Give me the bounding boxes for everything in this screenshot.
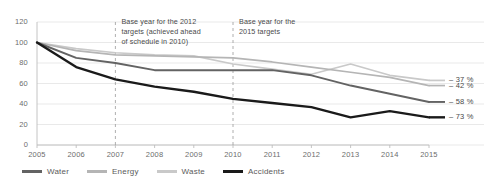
y-tick-label: 60 xyxy=(6,79,28,88)
legend-swatch-icon xyxy=(22,170,42,173)
annotation-base-year-2015: Base year for the 2015 targets xyxy=(239,17,295,37)
x-tick-label: 2015 xyxy=(409,150,449,159)
legend-swatch-icon xyxy=(157,170,177,173)
y-tick-label: 20 xyxy=(6,120,28,129)
end-label-accidents: – 73 % xyxy=(449,112,474,121)
x-tick-label: 2010 xyxy=(213,150,253,159)
x-tick-label: 2005 xyxy=(17,150,57,159)
y-tick-label: 40 xyxy=(6,99,28,108)
x-tick-label: 2007 xyxy=(95,150,135,159)
annotation-base-year-2012: Base year for the 2012 targets (achieved… xyxy=(121,17,200,48)
line-chart: 020406080100120 200520062007200820092010… xyxy=(0,0,491,184)
end-label-waste: – 37 % xyxy=(449,75,474,84)
legend-item-waste[interactable]: Waste xyxy=(157,167,205,176)
legend-item-energy[interactable]: Energy xyxy=(87,167,139,176)
x-tick-label: 2009 xyxy=(174,150,214,159)
x-tick-label: 2011 xyxy=(252,150,292,159)
x-tick-label: 2006 xyxy=(56,150,96,159)
x-tick-label: 2012 xyxy=(291,150,331,159)
x-tick-label: 2013 xyxy=(331,150,371,159)
y-tick-label: 80 xyxy=(6,58,28,67)
legend-label: Accidents xyxy=(248,167,284,176)
legend-label: Water xyxy=(47,167,69,176)
end-label-water: – 58 % xyxy=(449,97,474,106)
legend-item-water[interactable]: Water xyxy=(22,167,69,176)
y-tick-label: 120 xyxy=(6,17,28,26)
legend-label: Waste xyxy=(182,167,205,176)
y-tick-label: 100 xyxy=(6,38,28,47)
legend-swatch-icon xyxy=(223,170,243,173)
legend-label: Energy xyxy=(112,167,139,176)
x-tick-label: 2014 xyxy=(370,150,410,159)
y-tick-label: 0 xyxy=(6,140,28,149)
end-label-leaders xyxy=(429,80,445,117)
chart-legend: WaterEnergyWasteAccidents xyxy=(22,162,482,180)
legend-item-accidents[interactable]: Accidents xyxy=(223,167,284,176)
legend-swatch-icon xyxy=(87,170,107,173)
x-tick-label: 2008 xyxy=(135,150,175,159)
